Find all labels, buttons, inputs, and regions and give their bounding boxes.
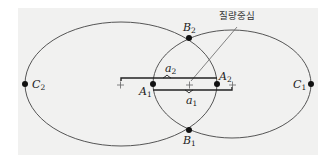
- label-a2: A2: [218, 70, 232, 84]
- point-a1-dot: [150, 81, 156, 87]
- label-b2: B2: [182, 21, 196, 35]
- focus-plus-icon-left: [117, 82, 124, 89]
- point-b2-dot: [186, 35, 192, 41]
- orbit-ellipse-1: [153, 30, 311, 138]
- label-c1: C1: [293, 78, 306, 92]
- center-of-mass-label: 질량중심: [219, 10, 255, 21]
- a2-bracket: [121, 78, 217, 81]
- center-of-mass-plus-icon: [186, 82, 193, 89]
- label-a2-distance: a2: [165, 62, 177, 76]
- label-a1-distance: a1: [186, 94, 197, 108]
- point-b1-dot: [186, 127, 192, 133]
- label-a1: A1: [138, 85, 152, 99]
- point-c1-dot: [308, 81, 314, 87]
- a1-bracket: [153, 87, 232, 90]
- binary-orbit-diagram: 질량중심 C2 C1 B2 B1 A1 A2 a2 a1: [0, 0, 335, 162]
- point-c2-dot: [22, 81, 28, 87]
- label-c2: C2: [32, 78, 45, 92]
- label-b1: B1: [182, 134, 196, 148]
